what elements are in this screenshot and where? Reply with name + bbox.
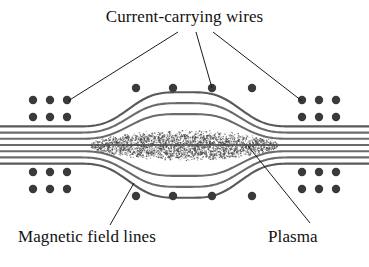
wire-dot [332,185,340,193]
wire-dot [132,84,140,92]
wire-dot [46,168,54,176]
wire-dot [63,113,71,121]
wire-dot [332,168,340,176]
wire-dot [332,96,340,104]
wire-dot [169,84,177,92]
wire-dot [315,113,323,121]
wires-leader-left [68,32,178,101]
wire-dot [248,192,256,200]
wire-dot [29,113,37,121]
field-lines-leader [110,183,134,225]
wire-dot [248,84,256,92]
magnetic-field-line [0,164,369,198]
current-carrying-wire-dots [29,84,340,200]
wire-dot [298,168,306,176]
wires-leader-right [213,32,302,101]
magnetic-field-line [0,157,369,186]
wire-dot [29,168,37,176]
label-current-carrying-wires: Current-carrying wires [0,8,369,25]
wire-dot [46,185,54,193]
wire-dot [132,192,140,200]
wire-dot [298,96,306,104]
wire-dot [29,185,37,193]
magnetic-field-line [0,92,369,126]
wire-dot [63,185,71,193]
wire-dot [315,185,323,193]
leader-lines [68,32,310,225]
wire-dot [298,185,306,193]
wire-dot [46,113,54,121]
wire-dot [169,192,177,200]
wire-dot [208,192,216,200]
wire-dot [315,168,323,176]
plasma-confinement-figure: Current-carrying wires Magnetic field li… [0,0,369,267]
magnetic-field-line [0,103,369,132]
wire-dot [29,96,37,104]
wire-dot [46,96,54,104]
magnetic-field-lines [0,92,369,198]
label-plasma: Plasma [268,228,318,245]
wire-dot [298,113,306,121]
wire-dot [63,168,71,176]
wires-leader-center [196,32,212,88]
label-magnetic-field-lines: Magnetic field lines [18,228,156,245]
wire-dot [332,113,340,121]
wire-dot [315,96,323,104]
